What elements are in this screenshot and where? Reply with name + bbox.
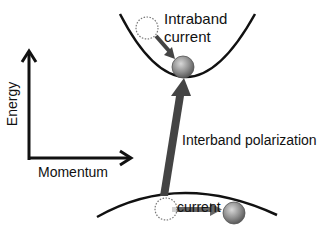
valence-hole bbox=[155, 198, 177, 220]
interband-polarization-label: Interband polarization bbox=[182, 132, 317, 148]
momentum-axis bbox=[28, 151, 131, 165]
energy-axis-label: Energy bbox=[4, 82, 20, 126]
valence-electron bbox=[223, 202, 245, 224]
intraband-label: Intraband bbox=[164, 11, 227, 27]
intraband-current-label: current bbox=[164, 29, 211, 45]
conduction-origin-hole bbox=[136, 17, 158, 39]
conduction-electron bbox=[172, 56, 194, 78]
energy-axis bbox=[22, 51, 36, 160]
valence-current-label: current bbox=[177, 199, 221, 215]
momentum-axis-label: Momentum bbox=[38, 164, 108, 180]
